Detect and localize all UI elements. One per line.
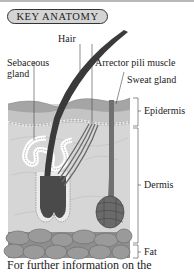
layer-brackets xyxy=(133,98,141,258)
label-epidermis: Epidermis xyxy=(144,105,185,116)
label-hair: Hair xyxy=(58,33,76,44)
label-sebaceous-line1: Sebaceous xyxy=(7,57,49,68)
label-sweat-gland: Sweat gland xyxy=(127,74,176,85)
hair-bulb xyxy=(40,176,66,218)
label-dermis: Dermis xyxy=(144,179,173,190)
fat-layer xyxy=(4,229,132,259)
footer-text: For further information on the xyxy=(7,258,152,273)
label-fat: Fat xyxy=(144,246,157,257)
skin-anatomy-diagram xyxy=(0,0,194,276)
label-arrector-pili-muscle: Arrector pili muscle xyxy=(95,57,176,68)
label-sebaceous-line2: gland xyxy=(7,68,29,79)
